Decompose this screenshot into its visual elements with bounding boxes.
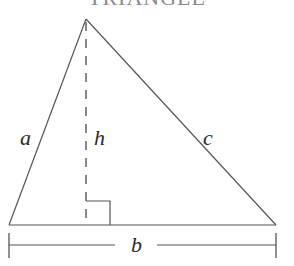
- label-side-a: a: [20, 127, 31, 149]
- side-a-line: [9, 19, 86, 225]
- label-side-b: b: [131, 234, 142, 256]
- triangle-diagram: TRIANGLE a h c b: [0, 0, 294, 266]
- side-c-line: [86, 19, 276, 225]
- label-height: h: [94, 127, 105, 149]
- triangle-figure: [0, 0, 294, 266]
- label-side-c: c: [203, 127, 213, 149]
- right-angle-marker: [86, 201, 110, 225]
